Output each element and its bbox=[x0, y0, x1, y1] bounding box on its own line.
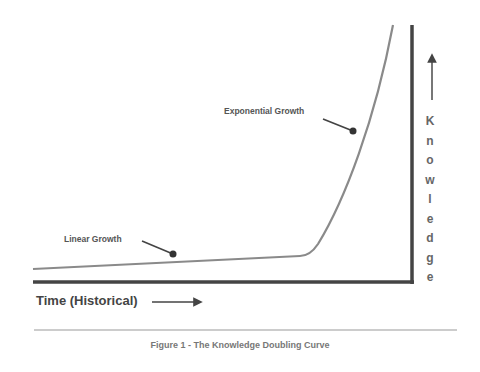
y-axis-letter: K bbox=[426, 112, 435, 132]
knowledge-curve-diagram: Linear Growth Exponential Growth bbox=[0, 0, 480, 372]
y-axis-letter: n bbox=[426, 132, 433, 152]
linear-growth-pointer-icon bbox=[142, 241, 173, 254]
linear-growth-label: Linear Growth bbox=[64, 234, 122, 244]
y-axis-letter: d bbox=[426, 229, 433, 249]
y-axis-letter: e bbox=[427, 268, 434, 288]
exponential-growth-label: Exponential Growth bbox=[224, 106, 304, 116]
figure-caption: Figure 1 - The Knowledge Doubling Curve bbox=[0, 340, 480, 350]
y-axis-letter: o bbox=[426, 151, 433, 171]
y-axis-letter: g bbox=[426, 249, 433, 269]
y-axis-label: K n o w l e d g e bbox=[423, 112, 437, 288]
y-axis-letter: w bbox=[425, 171, 434, 191]
x-axis-label: Time (Historical) bbox=[36, 293, 138, 308]
y-axis-letter: e bbox=[427, 210, 434, 230]
y-axis-letter: l bbox=[428, 190, 431, 210]
growth-curve bbox=[33, 25, 393, 269]
exponential-growth-pointer-icon bbox=[323, 119, 353, 131]
